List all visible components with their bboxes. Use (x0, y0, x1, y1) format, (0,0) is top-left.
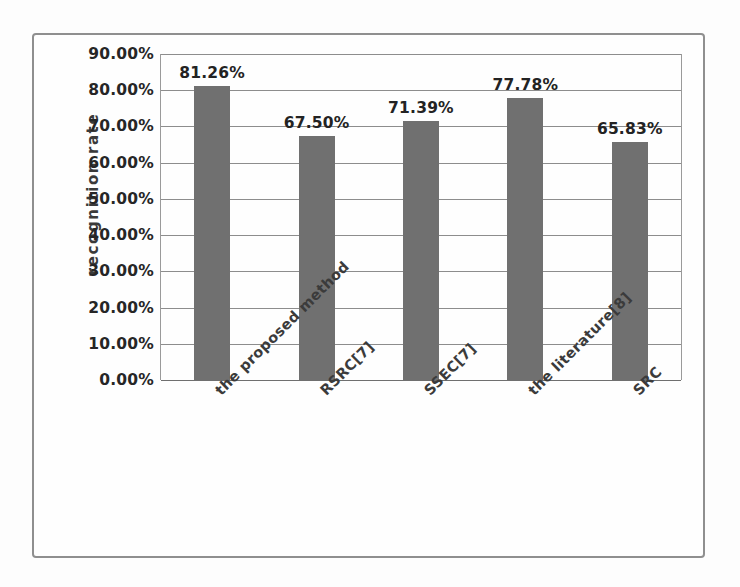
y-tick-label: 60.00% (44, 154, 154, 172)
bar-chart: recognition rate 90.00% 80.00% 70.00% 60… (34, 35, 707, 560)
bar-slot: 81.26% (160, 54, 264, 380)
y-tick-label: 50.00% (44, 190, 154, 208)
bar-slot: 77.78% (473, 54, 577, 380)
y-axis-tick-labels: 90.00% 80.00% 70.00% 60.00% 50.00% 40.00… (34, 54, 154, 380)
bars-layer: 81.26% 67.50% 71.39% 77.78% 65.83% (160, 54, 682, 380)
x-axis-category-labels: the proposed method RSRC[7] SSEC[7] the … (160, 387, 682, 557)
bar-src[interactable] (612, 142, 648, 380)
figure-frame: recognition rate 90.00% 80.00% 70.00% 60… (32, 33, 705, 558)
bar-the-literature8[interactable] (507, 98, 543, 380)
screenshot-root: recognition rate 90.00% 80.00% 70.00% 60… (0, 0, 740, 587)
y-tick-label: 40.00% (44, 226, 154, 244)
bar-value-label: 77.78% (460, 76, 590, 94)
y-tick-label: 80.00% (44, 81, 154, 99)
bar-the-proposed-method[interactable] (194, 86, 230, 380)
bar-value-label: 81.26% (147, 64, 277, 82)
y-tick-label: 10.00% (44, 335, 154, 353)
y-tick-label: 20.00% (44, 299, 154, 317)
y-tick-label: 30.00% (44, 262, 154, 280)
y-tick-label: 70.00% (44, 117, 154, 135)
bar-rsrc7[interactable] (299, 136, 335, 381)
bar-value-label: 65.83% (565, 120, 695, 138)
bar-slot: 71.39% (369, 54, 473, 380)
bar-ssec7[interactable] (403, 121, 439, 380)
y-tick-label: 0.00% (44, 371, 154, 389)
y-tick-label: 90.00% (44, 45, 154, 63)
bar-value-label: 71.39% (356, 99, 486, 117)
